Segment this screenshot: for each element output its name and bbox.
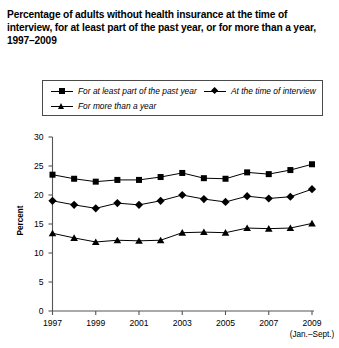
triangle-marker-icon <box>92 238 100 245</box>
legend-item-more-than-year[interactable]: For more than a year <box>51 100 156 112</box>
square-marker-icon <box>223 176 229 182</box>
x-tick-label: 1999 <box>76 318 116 328</box>
diamond-marker-icon <box>286 193 294 201</box>
y-tick-label: 15 <box>22 219 44 229</box>
square-marker-icon <box>266 171 272 177</box>
legend-label-more-than-year: For more than a year <box>78 101 156 111</box>
triangle-marker-icon <box>49 230 57 237</box>
chart-title: Percentage of adults without health insu… <box>7 8 322 48</box>
series-line <box>53 189 313 208</box>
square-marker-icon <box>179 170 185 176</box>
x-axis-note: (Jan.–Sept.) <box>280 330 339 339</box>
x-tick-label: 2005 <box>206 318 246 328</box>
series-line <box>53 164 313 181</box>
y-tick-label: 5 <box>22 277 44 287</box>
triangle-marker-icon <box>51 100 73 112</box>
series-2 <box>48 185 316 212</box>
diamond-marker-icon <box>157 197 165 205</box>
triangle-marker-icon <box>265 225 273 232</box>
diamond-marker-icon <box>178 191 186 199</box>
square-marker-icon <box>114 177 120 183</box>
square-marker-icon <box>93 179 99 185</box>
square-marker-icon <box>50 172 56 178</box>
triangle-marker-icon <box>178 229 186 236</box>
triangle-marker-icon <box>114 237 122 244</box>
legend-label-past-year: For at least part of the past year <box>78 86 197 96</box>
y-tick-label: 10 <box>22 248 44 258</box>
diamond-marker-icon <box>135 201 143 209</box>
series-1 <box>50 161 316 184</box>
diamond-marker-icon <box>200 195 208 203</box>
diamond-marker-icon <box>221 198 229 206</box>
square-marker-icon <box>244 169 250 175</box>
legend-item-at-interview[interactable]: At the time of interview <box>204 85 316 97</box>
triangle-marker-icon <box>222 229 230 236</box>
chart-legend: For at least part of the past year At th… <box>42 80 323 116</box>
diamond-marker-icon <box>70 201 78 209</box>
x-tick-label: 2009 <box>292 318 332 328</box>
triangle-marker-icon <box>135 237 143 244</box>
diamond-marker-icon <box>243 192 251 200</box>
square-marker-icon <box>158 174 164 180</box>
diamond-marker-icon <box>308 185 316 193</box>
triangle-marker-icon <box>308 220 316 227</box>
diamond-marker-icon <box>92 204 100 212</box>
y-tick-label: 0 <box>22 306 44 316</box>
x-tick-label: 2001 <box>119 318 159 328</box>
x-tick-label: 2003 <box>162 318 202 328</box>
diamond-marker-icon <box>113 199 121 207</box>
square-marker-icon <box>287 167 293 173</box>
triangle-marker-icon <box>157 237 165 244</box>
triangle-marker-icon <box>287 224 295 231</box>
diamond-marker-icon <box>265 194 273 202</box>
triangle-marker-icon <box>200 229 208 236</box>
y-tick-label: 20 <box>22 190 44 200</box>
x-tick-label: 2007 <box>249 318 289 328</box>
square-marker-icon <box>51 85 73 97</box>
series-line <box>53 223 313 242</box>
legend-item-past-year[interactable]: For at least part of the past year <box>51 85 197 97</box>
square-marker-icon <box>71 176 77 182</box>
legend-label-at-interview: At the time of interview <box>231 86 316 96</box>
square-marker-icon <box>201 175 207 181</box>
series-3 <box>49 220 316 245</box>
diamond-marker-icon <box>204 85 226 97</box>
x-tick-label: 1997 <box>33 318 73 328</box>
y-tick-label: 30 <box>22 132 44 142</box>
square-marker-icon <box>136 177 142 183</box>
triangle-marker-icon <box>70 234 78 241</box>
y-tick-label: 25 <box>22 161 44 171</box>
square-marker-icon <box>309 161 315 167</box>
diamond-marker-icon <box>48 197 56 205</box>
triangle-marker-icon <box>243 224 251 231</box>
